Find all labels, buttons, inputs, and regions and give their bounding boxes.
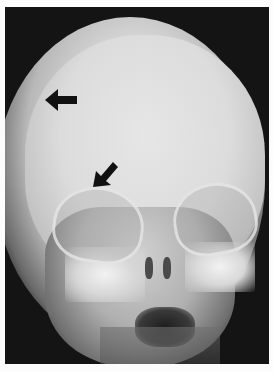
nasal-cavity-right — [163, 257, 171, 279]
xray-image — [5, 7, 269, 364]
cervical-region — [100, 327, 220, 364]
arrow-down-left-icon — [91, 159, 119, 189]
nasal-cavity-left — [145, 257, 153, 279]
arrow-left-icon — [45, 89, 79, 111]
